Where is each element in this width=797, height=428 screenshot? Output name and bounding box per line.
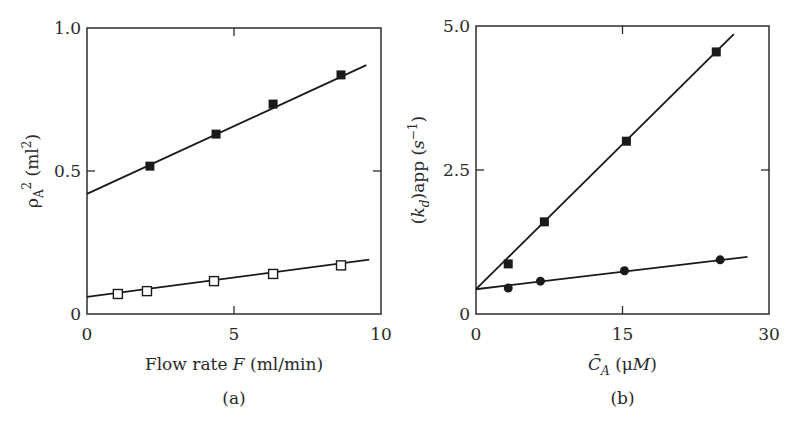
chart-panel-b: 0153002.55.0C̄A (μM)(kd)app (s−1)(b) <box>406 16 780 408</box>
data-point-marker <box>504 259 513 268</box>
data-point-marker <box>337 261 346 270</box>
x-tick-label: 0 <box>471 324 482 344</box>
data-point-marker <box>337 70 346 79</box>
x-tick-label: 30 <box>758 324 780 344</box>
data-point-marker <box>622 137 631 146</box>
fit-line <box>87 65 366 194</box>
fit-line <box>476 257 748 289</box>
data-point-marker <box>113 289 122 298</box>
fit-line <box>87 260 369 297</box>
y-tick-label: 1.0 <box>54 18 81 38</box>
y-tick-label: 5.0 <box>443 16 470 36</box>
data-point-marker <box>212 130 221 139</box>
y-tick-label: 2.5 <box>443 160 470 180</box>
x-axis-label: C̄A (μM) <box>588 353 657 378</box>
data-point-marker <box>536 277 545 286</box>
data-point-marker <box>540 217 549 226</box>
panel-caption: (a) <box>222 388 245 408</box>
panel-caption: (b) <box>610 388 634 408</box>
data-point-marker <box>269 100 278 109</box>
data-point-marker <box>620 266 629 275</box>
x-tick-label: 10 <box>370 324 392 344</box>
y-tick-label: 0 <box>459 304 470 324</box>
data-point-marker <box>210 277 219 286</box>
chart-panel-a: 051000.51.0Flow rate F (ml/min)ρA2 (ml2)… <box>20 18 392 408</box>
data-point-marker <box>269 269 278 278</box>
figure: 051000.51.0Flow rate F (ml/min)ρA2 (ml2)… <box>0 0 797 428</box>
data-point-marker <box>716 255 725 264</box>
x-tick-label: 5 <box>229 324 240 344</box>
figure-canvas: 051000.51.0Flow rate F (ml/min)ρA2 (ml2)… <box>0 0 797 428</box>
x-axis-label: Flow rate F (ml/min) <box>145 354 323 374</box>
y-tick-label: 0.5 <box>54 161 81 181</box>
fit-line <box>476 34 734 289</box>
y-axis-label: (kd)app (s−1) <box>406 116 432 224</box>
y-tick-label: 0 <box>70 304 81 324</box>
data-point-marker <box>142 287 151 296</box>
x-tick-label: 0 <box>82 324 93 344</box>
data-point-marker <box>145 162 154 171</box>
data-point-marker <box>504 284 513 293</box>
y-axis-label: ρA2 (ml2) <box>20 134 46 208</box>
data-point-marker <box>712 47 721 56</box>
x-tick-label: 15 <box>612 324 634 344</box>
